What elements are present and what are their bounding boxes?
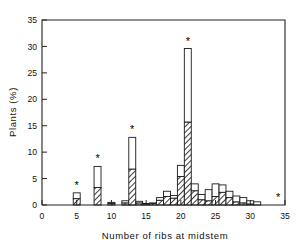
bar-segment-open [184,49,191,122]
y-tick-label: 25 [27,68,37,78]
histogram-chart: 0510152025303505101520253035 ***** Plant… [0,0,296,246]
bar-segment-hatched [184,122,191,205]
bar-segment-hatched [129,169,136,205]
figure-container: 0510152025303505101520253035 ***** Plant… [0,0,296,246]
bar-segment-hatched [191,191,198,205]
bar-segment-hatched [157,200,164,205]
bar-segment-hatched [198,200,205,205]
bar-segment-open [157,198,164,201]
bar-segment-open [170,195,177,198]
y-tick-label: 15 [27,121,37,131]
significance-asterisk: * [186,35,191,47]
y-tick-label: 35 [27,15,37,25]
bar-segment-open [177,165,184,176]
y-tick-label: 0 [32,200,37,210]
x-tick-label: 10 [107,211,117,221]
bar-segment-hatched [226,198,233,205]
bar-segment-open [205,190,212,201]
bar-segment-open [150,203,157,204]
y-axis-label: Plants (%) [7,87,18,137]
y-tick-label: 20 [27,94,37,104]
bar-segment-hatched [94,188,101,205]
bar-segment-open [94,166,101,187]
bar-segment-open [233,196,240,202]
x-axis-label: Number of ribs at midstem [102,230,228,241]
significance-asterisk: * [130,123,135,135]
bar-segment-open [219,185,226,192]
bar-segment-hatched [164,197,171,205]
significance-asterisk: * [276,191,281,203]
bar-segment-hatched [170,198,177,205]
bar-segment-open [73,193,80,199]
bar-segment-open [191,184,198,191]
bar-segment-hatched [219,192,226,205]
bar-segment-open [212,184,219,197]
x-tick-label: 15 [141,211,151,221]
y-tick-label: 10 [27,147,37,157]
chart-background [0,0,296,246]
x-tick-label: 0 [40,211,45,221]
x-tick-label: 35 [280,211,290,221]
x-tick-label: 30 [246,211,256,221]
bar-segment-open [164,191,171,196]
bar-segment-open [122,201,129,203]
bar-segment-open [226,191,233,197]
significance-asterisk: * [75,179,80,191]
y-tick-label: 30 [27,42,37,52]
x-tick-label: 25 [211,211,221,221]
bar-segment-open [136,201,143,203]
y-tick-label: 5 [32,174,37,184]
bar-segment-open [198,194,205,199]
bar-segment-open [129,137,136,169]
bar-segment-open [240,198,247,203]
x-tick-label: 20 [176,211,186,221]
x-tick-label: 5 [74,211,79,221]
bar-segment-hatched [205,201,212,205]
significance-asterisk: * [95,152,100,164]
